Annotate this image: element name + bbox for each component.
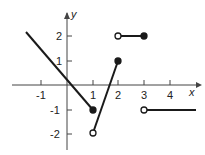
y-axis-arrow-icon: [64, 12, 70, 19]
axes: [12, 12, 202, 150]
x-tick-label: -1: [36, 89, 46, 101]
filled-dot-icon: [115, 58, 121, 64]
y-axis-label: y: [70, 8, 78, 20]
x-tick-label: 4: [167, 89, 173, 101]
open-dot-icon: [141, 107, 147, 113]
y-tick-label: 2: [56, 30, 62, 42]
x-axis-arrow-icon: [196, 82, 202, 88]
open-dot-icon: [115, 33, 121, 39]
x-tick-label: 1: [90, 89, 96, 101]
y-tick-label: 1: [56, 55, 62, 67]
x-axis-label: x: [188, 86, 195, 98]
filled-dot-icon: [90, 107, 96, 113]
open-dot-icon: [90, 130, 96, 136]
y-tick-label: -1: [50, 104, 60, 116]
piecewise-function-graph: -1 1 2 3 4 x 2 1 -1 -2 y: [0, 0, 205, 155]
x-tick-label: 2: [115, 89, 121, 101]
x-tick-label: 3: [141, 89, 147, 101]
tick-labels: -1 1 2 3 4 x 2 1 -1 -2 y: [36, 8, 195, 140]
y-tick-label: -2: [50, 128, 60, 140]
filled-dot-icon: [141, 33, 147, 39]
